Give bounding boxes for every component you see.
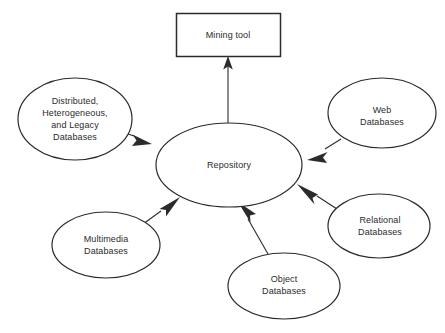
node-distributed-heterogeneous-legacy-databases[interactable] (18, 78, 132, 160)
node-repository[interactable] (156, 123, 302, 207)
diagram-canvas: Mining tool Repository Distributed, Hete… (0, 0, 445, 333)
edge-web-to-repository (307, 139, 341, 163)
edge-repository-to-mining-tool (223, 56, 233, 124)
edge-relational-to-repository (297, 184, 337, 209)
arrowhead-right-icon (132, 135, 152, 147)
arrowhead-upleft-icon (297, 184, 318, 205)
arrowhead-upright-icon (160, 197, 181, 217)
node-multimedia-databases[interactable] (52, 212, 160, 278)
edge-multimedia-to-repository (143, 197, 180, 224)
node-web-databases[interactable] (328, 78, 436, 148)
node-object-databases[interactable] (228, 253, 340, 319)
node-relational-databases[interactable] (328, 194, 430, 258)
arrowhead-left-icon (307, 152, 328, 163)
diagram-svg (0, 0, 445, 333)
node-mining-tool[interactable] (177, 14, 281, 57)
edge-object-to-repository (238, 202, 268, 254)
